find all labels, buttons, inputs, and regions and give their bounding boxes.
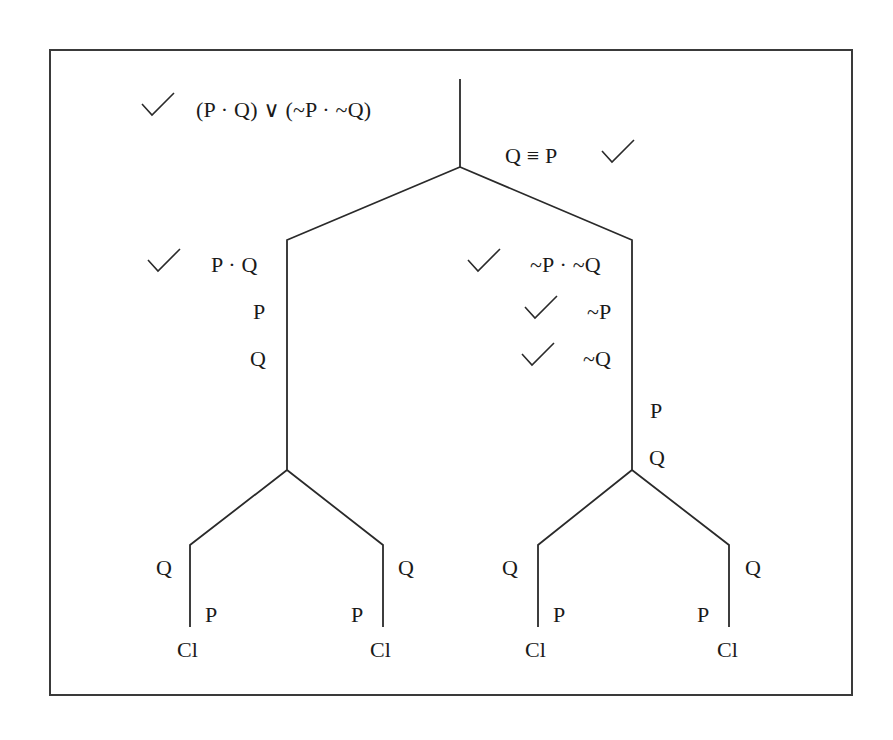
premise-2-label: Q ≡ P [505, 144, 558, 168]
left-node-q: Q [250, 347, 266, 371]
premise-1-label: (P · Q) ∨ (~P · ~Q) [196, 98, 371, 122]
leaf-2-p: P [351, 603, 363, 627]
leaf-1-q: Q [156, 556, 172, 580]
left-right-branch-line [287, 470, 383, 627]
checkmark-icon [523, 293, 559, 321]
checkmark-icon [140, 90, 176, 118]
leaf-4-closed: Cl [717, 638, 738, 662]
right-node-q: Q [649, 446, 665, 470]
leaf-2-closed: Cl [370, 638, 391, 662]
right-node-not-p: ~P [587, 300, 612, 324]
checkmark-icon [146, 246, 182, 274]
leaf-3-q: Q [502, 556, 518, 580]
tree-lines [0, 0, 893, 740]
left-node-p: P [253, 300, 265, 324]
leaf-4-p: P [697, 603, 709, 627]
right-node-conjunction: ~P · ~Q [530, 253, 601, 277]
checkmark-icon [600, 137, 636, 165]
checkmark-icon [466, 246, 502, 274]
leaf-1-closed: Cl [177, 638, 198, 662]
leaf-3-p: P [553, 603, 565, 627]
checkmark-icon [520, 340, 556, 368]
leaf-4-q: Q [745, 556, 761, 580]
left-node-conjunction: P · Q [211, 253, 258, 277]
right-right-branch-line [632, 470, 729, 627]
right-node-not-q: ~Q [583, 347, 611, 371]
leaf-2-q: Q [398, 556, 414, 580]
leaf-1-p: P [205, 603, 217, 627]
right-node-p: P [650, 399, 662, 423]
left-branch-line [287, 167, 460, 470]
leaf-3-closed: Cl [525, 638, 546, 662]
